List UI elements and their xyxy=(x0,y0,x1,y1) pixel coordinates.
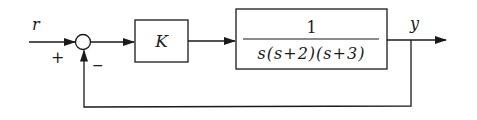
block-diagram: r + − K 1 s(s+2)(s+3) y xyxy=(0,0,477,120)
minus-sign: − xyxy=(92,57,104,73)
plant-denominator: s(s+2)(s+3) xyxy=(258,44,366,63)
plant-numerator: 1 xyxy=(306,18,316,37)
output-label: y xyxy=(409,14,420,33)
summing-junction xyxy=(76,35,91,50)
input-label: r xyxy=(32,15,41,34)
plus-sign: + xyxy=(51,48,64,67)
controller-gain-label: K xyxy=(154,31,169,51)
